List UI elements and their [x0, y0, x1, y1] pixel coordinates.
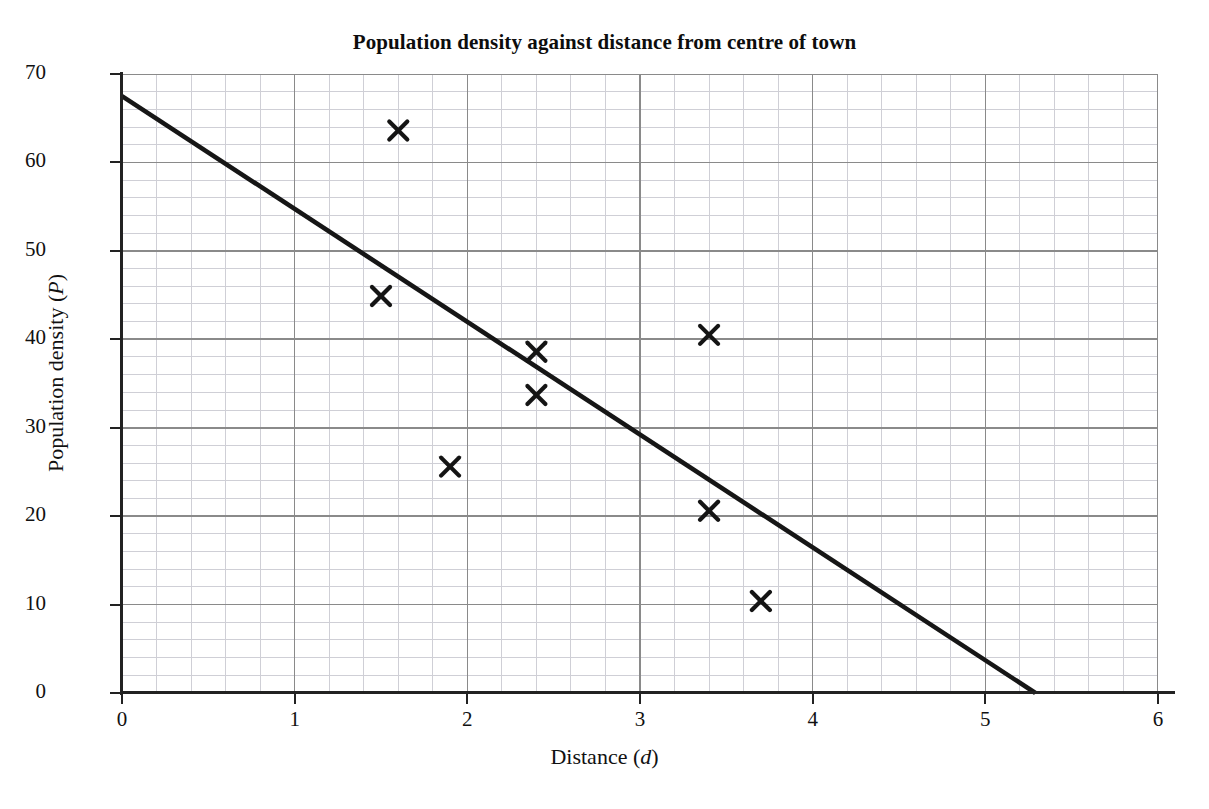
y-axis-variable: P [43, 281, 68, 294]
x-axis-title-tail: ) [651, 744, 658, 769]
x-tick-label: 0 [102, 707, 142, 732]
x-tick-mark [812, 693, 814, 704]
x-tick-label: 2 [447, 707, 487, 732]
chart-data-layer [122, 74, 1158, 693]
y-tick-mark [110, 161, 121, 163]
y-tick-label: 0 [0, 679, 46, 704]
y-axis-title-text: Population density ( [43, 295, 68, 472]
x-tick-label: 3 [620, 707, 660, 732]
x-tick-mark [1157, 693, 1159, 704]
y-axis-title-tail: ) [43, 274, 68, 281]
y-tick-mark [110, 515, 121, 517]
x-axis-title-text: Distance ( [550, 744, 640, 769]
x-tick-mark [294, 693, 296, 704]
x-axis-title: Distance (d) [0, 744, 1209, 770]
x-axis-variable: d [640, 744, 651, 769]
y-tick-label: 10 [0, 591, 46, 616]
data-point-marker [700, 502, 718, 520]
y-tick-mark [110, 338, 121, 340]
x-axis-line [120, 691, 1175, 694]
y-axis-title: Population density (P) [43, 53, 69, 693]
data-point-marker [372, 287, 390, 305]
y-tick-label: 70 [0, 60, 46, 85]
data-point-marker [527, 386, 545, 404]
x-tick-mark [639, 693, 641, 704]
data-point-marker [441, 458, 459, 476]
x-tick-label: 6 [1138, 707, 1178, 732]
chart-figure: Population density against distance from… [0, 0, 1209, 809]
x-tick-label: 4 [793, 707, 833, 732]
data-point-marker [752, 592, 770, 610]
y-tick-mark [110, 692, 121, 694]
y-axis-line [120, 72, 123, 695]
data-point-marker [527, 343, 545, 361]
y-tick-label: 30 [0, 414, 46, 439]
y-tick-label: 50 [0, 237, 46, 262]
data-point-marker [700, 326, 718, 344]
y-tick-label: 20 [0, 502, 46, 527]
y-tick-label: 40 [0, 325, 46, 350]
x-tick-mark [466, 693, 468, 704]
trend-line [122, 96, 1035, 693]
x-tick-mark [121, 693, 123, 704]
x-tick-label: 1 [275, 707, 315, 732]
y-tick-mark [110, 73, 121, 75]
y-tick-mark [110, 250, 121, 252]
x-tick-label: 5 [965, 707, 1005, 732]
chart-title: Population density against distance from… [0, 30, 1209, 55]
plot-area [122, 74, 1158, 693]
y-tick-mark [110, 427, 121, 429]
y-tick-mark [110, 604, 121, 606]
data-point-marker [389, 122, 407, 140]
x-tick-mark [984, 693, 986, 704]
y-tick-label: 60 [0, 148, 46, 173]
